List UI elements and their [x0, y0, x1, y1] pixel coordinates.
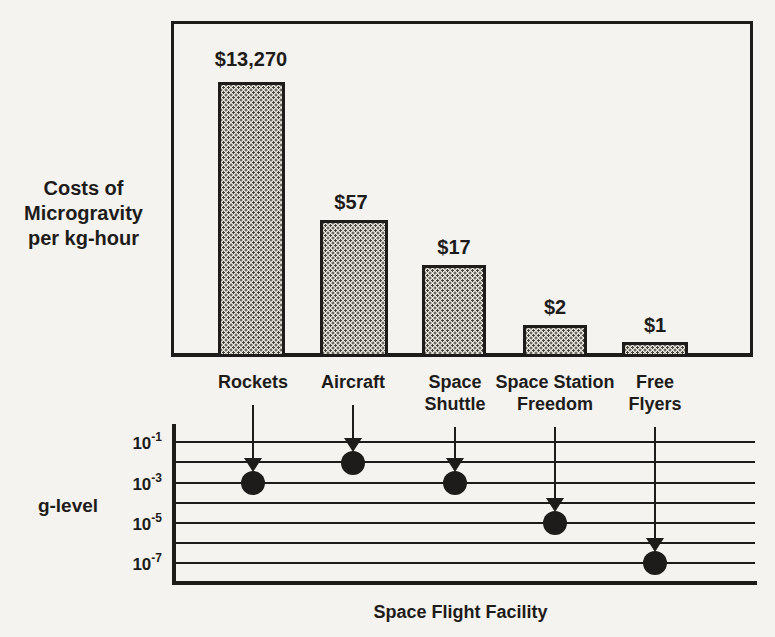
dropline-rockets: [252, 405, 254, 465]
g-chart-xlabel: Space Flight Facility: [338, 602, 583, 623]
tick-exponent: -5: [151, 511, 162, 525]
tick-exponent: -3: [151, 471, 162, 485]
tick-exponent: -7: [151, 551, 162, 565]
bar-space-shuttle: [422, 265, 486, 357]
gridline-1e-6: [174, 542, 755, 544]
gridline-1e-5: [174, 522, 755, 524]
bar-free-flyers: [622, 342, 688, 357]
category-line-1: Free: [585, 371, 725, 393]
g-chart-ylabel: g-level: [22, 495, 114, 517]
ylabel-line-2: Microgravity: [11, 201, 156, 226]
tick-base: 10: [132, 475, 151, 494]
down-arrow-icon-space-shuttle: [446, 458, 464, 472]
bar-chart-ylabel: Costs of Microgravity per kg-hour: [11, 176, 156, 251]
bar-space-station-freedom: [523, 325, 587, 357]
tick-exponent: -1: [151, 430, 162, 444]
gridline-1e-7: [174, 562, 755, 564]
value-label-aircraft: $57: [291, 191, 411, 214]
datapoint-free-flyers-1e-7: [643, 551, 667, 575]
datapoint-space-shuttle-1e-3: [443, 471, 467, 495]
value-label-free-flyers: $1: [595, 314, 715, 337]
bar-aircraft: [320, 220, 388, 357]
scanned-figure-page: { "figure": { "description_colors": { "i…: [0, 0, 775, 637]
tick-base: 10: [132, 555, 151, 574]
datapoint-rockets-1e-3: [241, 471, 265, 495]
tick-base: 10: [132, 434, 151, 453]
dropline-space-station-freedom: [554, 427, 556, 505]
value-label-rockets: $13,270: [191, 48, 311, 71]
category-label-free-flyers: Free Flyers: [585, 371, 725, 415]
tick-base: 10: [132, 515, 151, 534]
down-arrow-icon-aircraft: [344, 438, 362, 452]
g-chart-y-axis: [172, 424, 176, 584]
gridline-1e-4: [174, 502, 755, 504]
down-arrow-icon-space-station-freedom: [546, 498, 564, 512]
dropline-free-flyers: [654, 427, 656, 545]
down-arrow-icon-free-flyers: [646, 538, 664, 552]
ytick-1e-1: 10-1: [108, 431, 162, 454]
category-line-2: Flyers: [585, 393, 725, 415]
value-label-space-shuttle: $17: [394, 236, 514, 259]
gridline-1e-1: [174, 441, 755, 443]
ytick-1e-5: 10-5: [108, 512, 162, 535]
ytick-1e-7: 10-7: [108, 552, 162, 575]
ytick-1e-3: 10-3: [108, 472, 162, 495]
ylabel-line-1: Costs of: [11, 176, 156, 201]
datapoint-space-station-freedom-1e-5: [543, 511, 567, 535]
bar-rockets: [218, 82, 285, 357]
ylabel-line-3: per kg-hour: [11, 226, 156, 251]
down-arrow-icon-rockets: [244, 458, 262, 472]
g-chart-x-axis: [172, 581, 757, 585]
datapoint-aircraft-1e-2: [341, 451, 365, 475]
